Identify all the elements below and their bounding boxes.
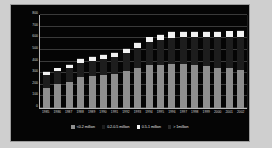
bar-segment bbox=[226, 68, 233, 108]
y-axis-tick-label: 600 bbox=[32, 36, 38, 39]
bar-segment bbox=[157, 65, 164, 108]
legend-label: 0.2-0.5 million bbox=[107, 125, 129, 129]
bar-column bbox=[54, 15, 61, 108]
bar-segment bbox=[237, 37, 244, 71]
bar-column bbox=[134, 15, 141, 108]
bar-column bbox=[123, 15, 130, 108]
x-axis-tick-label: 1995 bbox=[157, 110, 164, 119]
x-axis-tick-label: 1996 bbox=[168, 110, 175, 119]
y-axis-tick-label: 500 bbox=[32, 47, 38, 50]
bar-column bbox=[203, 15, 210, 108]
legend-swatch-icon bbox=[168, 125, 171, 128]
legend-item[interactable]: 0.5-1 million bbox=[137, 125, 162, 129]
bar-segment bbox=[191, 65, 198, 108]
y-axis-tick-label: 400 bbox=[32, 59, 38, 62]
y-axis-tick-label: 300 bbox=[32, 70, 38, 73]
bar-segment bbox=[66, 82, 73, 108]
bar-segment bbox=[180, 64, 187, 108]
y-axis-tick-label: 100 bbox=[32, 94, 38, 97]
x-axis-tick-label: 2000 bbox=[214, 110, 221, 119]
bar-segment bbox=[89, 61, 96, 77]
x-axis-tick-label: 1992 bbox=[122, 110, 129, 119]
x-axis-tick-label: 1986 bbox=[53, 110, 60, 119]
x-axis-tick-label: 1987 bbox=[65, 110, 72, 119]
bar-segment bbox=[89, 76, 96, 108]
bar-segment bbox=[180, 37, 187, 64]
y-axis-tick-label: 200 bbox=[32, 82, 38, 85]
legend-item[interactable]: 0.2-0.5 million bbox=[102, 125, 130, 129]
y-axis-tick-label: 0 bbox=[36, 105, 38, 108]
bar-column bbox=[100, 15, 107, 108]
right-axis-line bbox=[247, 15, 248, 109]
bar-segment bbox=[237, 70, 244, 108]
bar-column bbox=[77, 15, 84, 108]
x-axis-tick-label: 1991 bbox=[111, 110, 118, 119]
x-axis-tick-label: 1988 bbox=[76, 110, 83, 119]
bar-segment bbox=[157, 40, 164, 65]
x-axis-tick-label: 1993 bbox=[134, 110, 141, 119]
x-axis-tick-label: 2001 bbox=[226, 110, 233, 119]
bar-column bbox=[111, 15, 118, 108]
bar-column bbox=[180, 15, 187, 108]
bar-column bbox=[226, 15, 233, 108]
x-axis-tick-label: 1985 bbox=[42, 110, 49, 119]
x-axis-tick-label: 1998 bbox=[191, 110, 198, 119]
bar-column bbox=[237, 15, 244, 108]
y-axis-tick-label: 800 bbox=[32, 12, 38, 15]
legend-item[interactable]: <0.2 million bbox=[71, 125, 94, 129]
bar-segment bbox=[111, 57, 118, 74]
bar-segment bbox=[100, 59, 107, 76]
bar-segment bbox=[43, 88, 50, 108]
bar-column bbox=[191, 15, 198, 108]
legend-label: > 1million bbox=[173, 125, 188, 129]
bar-segment bbox=[168, 64, 175, 108]
legend-swatch-icon bbox=[71, 125, 74, 128]
bar-segment bbox=[168, 38, 175, 65]
bar-segment bbox=[66, 68, 73, 82]
bar-segment bbox=[146, 65, 153, 108]
bar-segment bbox=[146, 42, 153, 65]
bar-segment bbox=[54, 71, 61, 84]
bar-segment bbox=[77, 63, 84, 77]
bar-segment bbox=[226, 37, 233, 69]
bar-column bbox=[214, 15, 221, 108]
bar-column bbox=[168, 15, 175, 108]
chart-legend: <0.2 million0.2-0.5 million0.5-1 million… bbox=[11, 125, 249, 129]
x-axis-tick-label: 1997 bbox=[180, 110, 187, 119]
bar-segment bbox=[77, 77, 84, 108]
x-axis-tick-label: 1989 bbox=[88, 110, 95, 119]
x-axis-tick-label: 2002 bbox=[237, 110, 244, 119]
chart-panel: 8007006005004003002001000 19851986198719… bbox=[10, 4, 250, 142]
bar-column bbox=[146, 15, 153, 108]
bar-segment bbox=[134, 48, 141, 69]
plot-area: 8007006005004003002001000 bbox=[39, 15, 247, 109]
bar-segment bbox=[214, 37, 221, 68]
legend-swatch-icon bbox=[102, 125, 105, 128]
bar-segment bbox=[43, 75, 50, 88]
bar-segment bbox=[191, 37, 198, 65]
bar-segment bbox=[54, 84, 61, 108]
bar-segment bbox=[123, 53, 130, 72]
bar-segment bbox=[100, 75, 107, 108]
x-axis-tick-label: 1999 bbox=[203, 110, 210, 119]
legend-label: 0.5-1 million bbox=[142, 125, 161, 129]
x-axis-tick-label: 1990 bbox=[99, 110, 106, 119]
bar-group bbox=[40, 15, 247, 108]
legend-label: <0.2 million bbox=[77, 125, 95, 129]
x-axis-labels: 1985198619871988198919901991199219931994… bbox=[39, 110, 247, 119]
bar-segment bbox=[203, 37, 210, 66]
legend-item[interactable]: > 1million bbox=[168, 125, 188, 129]
bar-segment bbox=[134, 68, 141, 108]
bar-column bbox=[157, 15, 164, 108]
bar-column bbox=[66, 15, 73, 108]
bar-segment bbox=[203, 66, 210, 108]
bar-column bbox=[43, 15, 50, 108]
bar-segment bbox=[123, 71, 130, 108]
chart-frame: 8007006005004003002001000 19851986198719… bbox=[0, 0, 272, 148]
bar-column bbox=[89, 15, 96, 108]
bar-segment bbox=[111, 74, 118, 108]
y-axis-tick-label: 700 bbox=[32, 24, 38, 27]
bar-segment bbox=[214, 68, 221, 108]
legend-swatch-icon bbox=[137, 125, 140, 128]
x-axis-tick-label: 1994 bbox=[145, 110, 152, 119]
